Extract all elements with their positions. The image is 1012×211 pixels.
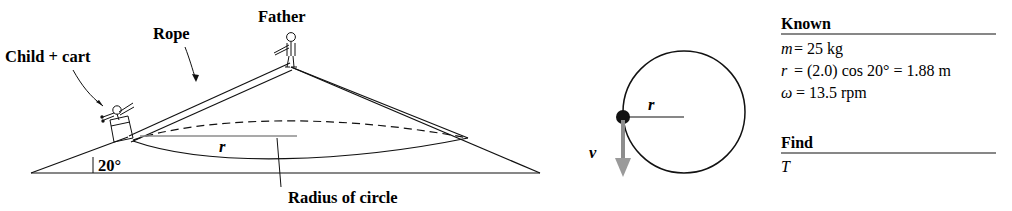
- child-cart-figure: [100, 103, 134, 142]
- top-view-circle-diagram: r v⃗: [560, 0, 760, 211]
- child-cart-label: Child + cart: [5, 47, 91, 66]
- known-item-radius: r = (2.0) cos 20° = 1.88 m: [781, 62, 951, 80]
- svg-text:v⃗: v⃗: [589, 143, 609, 162]
- circle-path-dashed-far: [133, 121, 468, 140]
- known-item-symbol: ω: [781, 84, 792, 101]
- known-item-omega: ω = 13.5 rpm: [781, 84, 867, 102]
- rope-arrow-head: [192, 74, 199, 82]
- known-item-symbol: m: [781, 40, 793, 57]
- father-label: Father: [258, 7, 306, 26]
- find-heading: Find: [781, 134, 813, 151]
- circle-outline: [623, 51, 745, 173]
- known-item-value: = 25 kg: [794, 40, 843, 58]
- radius-caption-leader: [277, 138, 281, 187]
- known-heading: Known: [781, 15, 831, 32]
- radius-symbol-label: r: [648, 95, 655, 114]
- circle-path-solid-near: [133, 138, 468, 159]
- rope-label: Rope: [153, 24, 190, 43]
- rope-lower-line: [131, 70, 292, 142]
- known-item-value: = (2.0) cos 20° = 1.88 m: [794, 62, 951, 80]
- known-find-panel: Known m = 25 kg r = (2.0) cos 20° = 1.88…: [760, 0, 1012, 211]
- velocity-symbol-label: v⃗: [589, 143, 609, 162]
- perspective-cone-diagram: 20° r Radius of circle: [0, 0, 560, 211]
- find-item-symbol: T: [781, 158, 791, 175]
- radius-symbol-label: r: [219, 137, 226, 156]
- known-item-symbol: r: [781, 62, 788, 79]
- father-figure: [274, 33, 297, 67]
- known-item-value: = 13.5 rpm: [796, 84, 867, 102]
- radius-caption-label: Radius of circle: [288, 188, 398, 207]
- known-item-mass: m = 25 kg: [781, 40, 843, 58]
- velocity-arrow-head: [615, 158, 631, 177]
- cone-slant-right: [291, 67, 468, 138]
- physics-figure: 20° r Radius of circle: [0, 0, 1012, 211]
- angle-label: 20°: [98, 156, 121, 175]
